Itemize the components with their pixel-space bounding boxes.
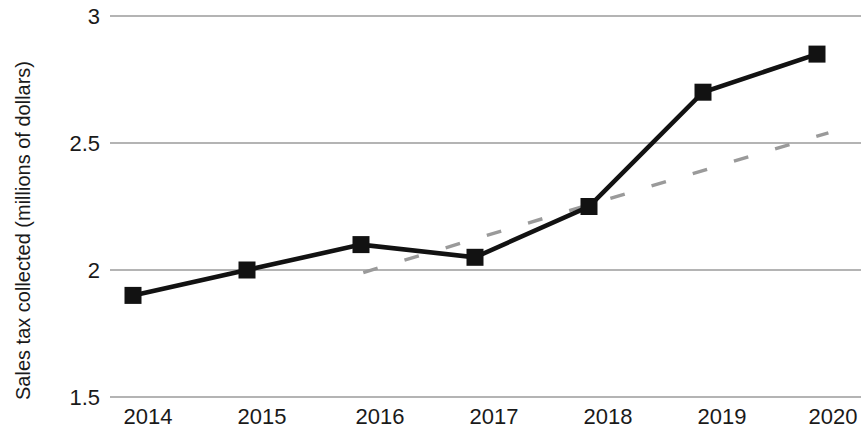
- x-tick-label-2014: 2014: [124, 404, 173, 429]
- x-tick-label-2019: 2019: [698, 404, 747, 429]
- data-point-marker-2015: [239, 262, 256, 279]
- y-tick-label-2-5: 2.5: [69, 131, 100, 156]
- chart-canvas: 3 2.5 2 1.5 2014 2015 2016 2017 2018 201…: [0, 0, 861, 430]
- chart-background: [0, 0, 861, 430]
- x-tick-label-2017: 2017: [470, 404, 519, 429]
- x-tick-label-2016: 2016: [356, 404, 405, 429]
- y-tick-label-1-5: 1.5: [69, 385, 100, 410]
- y-tick-label-3: 3: [88, 4, 100, 29]
- x-tick-label-2018: 2018: [584, 404, 633, 429]
- x-tick-label-2015: 2015: [238, 404, 287, 429]
- line-chart: 3 2.5 2 1.5 2014 2015 2016 2017 2018 201…: [0, 0, 861, 430]
- data-point-marker-2016: [353, 236, 370, 253]
- data-point-marker-2019: [695, 84, 712, 101]
- data-point-marker-2017: [467, 249, 484, 266]
- x-tick-label-2020: 2020: [809, 404, 858, 429]
- y-axis-title: Sales tax collected (millions of dollars…: [12, 61, 34, 400]
- data-point-marker-2014: [125, 287, 142, 304]
- data-point-marker-2020: [809, 46, 826, 63]
- data-point-marker-2018: [581, 198, 598, 215]
- y-tick-label-2: 2: [88, 258, 100, 283]
